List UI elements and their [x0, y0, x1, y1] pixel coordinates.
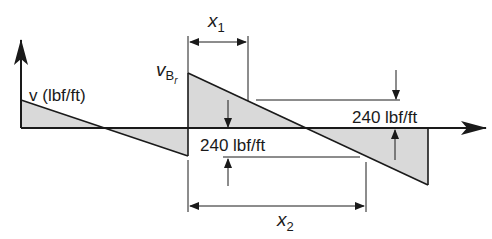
upper-240-label: 240 lbf/ft: [352, 108, 417, 127]
shear-diagram: x1 x2 240 lbf/ft 240 lbf/ft v (lbf/ft) v…: [0, 0, 492, 239]
x2-label: x2: [276, 209, 294, 234]
x1-label: x1: [207, 10, 225, 35]
v-b-r-label: vBr: [156, 59, 178, 86]
lower-240-label: 240 lbf/ft: [200, 136, 265, 155]
vertical-axis-label: v (lbf/ft): [29, 86, 86, 105]
